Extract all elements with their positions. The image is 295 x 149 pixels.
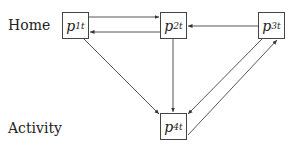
edge-p4t-to-p3t	[188, 40, 277, 135]
edge-p3t-to-p4t	[188, 39, 262, 114]
row-label-home: Home	[8, 17, 50, 33]
node-p1t-sub: 1t	[75, 21, 84, 31]
node-p4t-sub: 4t	[173, 122, 182, 132]
node-p1t-base: p	[66, 18, 75, 34]
node-p2t-base: p	[164, 18, 173, 34]
node-p3t-sub: 3t	[271, 21, 280, 31]
node-p1t: p1t	[62, 12, 89, 39]
edge-p1t-to-p4t	[84, 39, 159, 114]
row-label-activity: Activity	[8, 120, 62, 136]
node-p4t-base: p	[164, 119, 173, 135]
node-p4t: p4t	[160, 113, 187, 140]
node-p2t-sub: 2t	[173, 21, 182, 31]
node-p3t-base: p	[262, 18, 271, 34]
node-p3t: p3t	[258, 12, 285, 39]
node-p2t: p2t	[160, 12, 187, 39]
